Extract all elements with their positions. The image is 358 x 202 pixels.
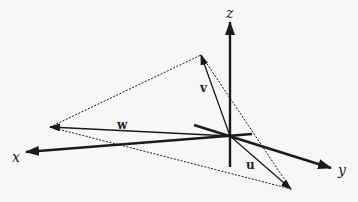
dashed-triangle	[50, 55, 291, 189]
y-axis	[194, 125, 331, 168]
vectors	[50, 55, 291, 189]
y-axis-label-text: y	[337, 162, 347, 178]
x-axis	[26, 134, 252, 152]
vector-diagram: xyzvwu x y z v w u	[0, 0, 358, 202]
z-axis-label-text: z	[225, 5, 234, 21]
x-axis-label-text: x	[12, 149, 20, 165]
vector-v	[201, 55, 230, 136]
vector-v-label-text: v	[199, 81, 208, 95]
labels: xyzvwu	[12, 5, 347, 178]
axes	[26, 22, 331, 168]
vector-w-label-text: w	[116, 118, 128, 132]
dashed-edge	[50, 55, 201, 127]
vector-u-label-text: u	[246, 158, 255, 172]
diagram-svg: xyzvwu	[0, 0, 358, 202]
